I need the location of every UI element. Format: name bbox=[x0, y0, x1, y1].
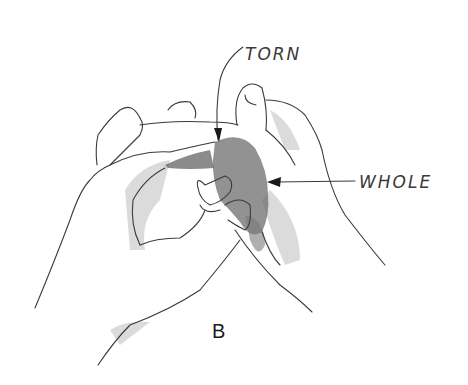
line-art bbox=[35, 47, 385, 365]
whole-arrowhead-icon bbox=[267, 177, 281, 187]
hands-illustration bbox=[0, 0, 468, 385]
illustration-canvas: TORN WHOLE B bbox=[0, 0, 468, 385]
whole-label: WHOLE bbox=[359, 172, 432, 192]
torn-label: TORN bbox=[245, 44, 301, 64]
panel-letter: B bbox=[212, 320, 225, 343]
torn-material bbox=[165, 137, 268, 251]
shading bbox=[110, 110, 300, 345]
